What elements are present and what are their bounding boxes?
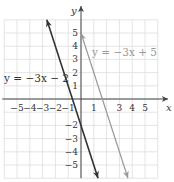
axes bbox=[2, 6, 168, 178]
x-tick-label: −3 bbox=[36, 103, 50, 113]
y-tick-label: −2 bbox=[65, 120, 78, 130]
y-tick-label: 1 bbox=[72, 81, 78, 91]
chart: −5−4−3−2−1134554321−2−3−4−5 x y y = −3x … bbox=[0, 0, 174, 182]
x-tick-label: 5 bbox=[142, 103, 148, 113]
x-axis-label: x bbox=[166, 102, 172, 113]
y-tick-label: 2 bbox=[72, 68, 78, 78]
x-tick-label: −2 bbox=[49, 103, 62, 113]
x-tick-label: 4 bbox=[129, 103, 135, 113]
x-tick-label: 1 bbox=[91, 103, 97, 113]
y-tick-label: 4 bbox=[72, 41, 78, 51]
y-tick-label: 3 bbox=[72, 54, 78, 64]
y-tick-label: −3 bbox=[65, 134, 79, 144]
x-tick-label: −5 bbox=[10, 103, 24, 113]
y-tick-label: −4 bbox=[65, 147, 79, 157]
y-tick-label: −5 bbox=[65, 160, 79, 170]
x-tick-label: −1 bbox=[62, 103, 75, 113]
series-label-line2: y = −3x + 5 bbox=[91, 46, 157, 58]
x-tick-label: −4 bbox=[23, 103, 37, 113]
x-tick-label: 3 bbox=[117, 103, 123, 113]
y-axis-label: y bbox=[70, 5, 77, 16]
y-tick-label: 5 bbox=[72, 28, 78, 38]
series-label-line1: y = −3x − 2 bbox=[3, 72, 69, 84]
